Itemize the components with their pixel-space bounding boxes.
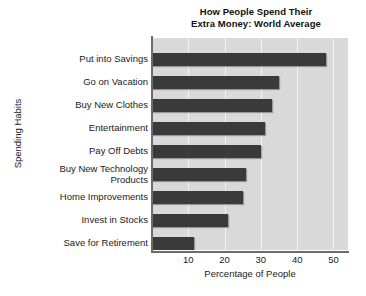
chart-title: How People Spend Their Extra Money: Worl… <box>152 6 360 30</box>
bar[interactable] <box>152 76 279 89</box>
bar[interactable] <box>152 191 243 204</box>
bar[interactable] <box>152 237 194 250</box>
chart-title-line-2: Extra Money: World Average <box>152 18 360 30</box>
plot-inner <box>152 38 348 250</box>
gridline-40 <box>297 38 298 250</box>
x-tick-label-40: 40 <box>292 254 303 265</box>
bar[interactable] <box>152 122 265 135</box>
plot-area <box>152 38 348 250</box>
y-axis-title: Spending Habits <box>12 74 23 194</box>
x-tick-label-10: 10 <box>183 254 194 265</box>
category-label: Buy New Technology Products <box>18 164 148 185</box>
category-label: Put into Savings <box>18 54 148 65</box>
bar[interactable] <box>152 168 246 181</box>
x-axis-title: Percentage of People <box>152 268 348 279</box>
bar[interactable] <box>152 53 326 66</box>
x-axis-line <box>151 251 349 253</box>
bar[interactable] <box>152 145 261 158</box>
y-axis-title-wrap: Spending Habits <box>0 0 30 296</box>
category-label: Pay Off Debts <box>18 146 148 157</box>
x-tick-label-20: 20 <box>219 254 230 265</box>
chart-title-line-1: How People Spend Their <box>152 6 360 18</box>
category-label: Entertainment <box>18 123 148 134</box>
category-label: Save for Retirement <box>18 238 148 249</box>
gridline-50 <box>333 38 334 250</box>
chart-container: How People Spend Their Extra Money: Worl… <box>0 0 366 296</box>
category-label: Home Improvements <box>18 192 148 203</box>
gridline-30 <box>261 38 262 250</box>
category-label: Invest in Stocks <box>18 215 148 226</box>
category-label: Buy New Clothes <box>18 100 148 111</box>
category-label: Go on Vacation <box>18 77 148 88</box>
bar[interactable] <box>152 214 228 227</box>
x-tick-label-50: 50 <box>328 254 339 265</box>
x-tick-label-30: 30 <box>256 254 267 265</box>
y-axis-line <box>151 36 153 252</box>
bar[interactable] <box>152 99 272 112</box>
